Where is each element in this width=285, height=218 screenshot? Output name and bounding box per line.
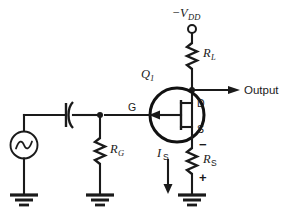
gate-resistor-label-subscript: G bbox=[118, 148, 124, 158]
ground-source-resistor bbox=[178, 195, 206, 205]
ac-source-symbol bbox=[11, 115, 38, 194]
supply-label-subscript: DD bbox=[187, 12, 201, 22]
output-label: Output bbox=[244, 84, 279, 96]
gate-resistor-label-symbol: R bbox=[109, 142, 118, 156]
jfet-transistor-symbol bbox=[105, 88, 204, 142]
gate-resistor-symbol bbox=[95, 138, 105, 164]
source-current-label-subscript: S bbox=[163, 152, 169, 162]
load-resistor-symbol bbox=[187, 43, 197, 69]
circuit-schematic: − V DD R L Q 1 Output G D S R G R S bbox=[0, 0, 285, 218]
source-current-label-symbol: I bbox=[156, 146, 162, 160]
load-resistor-label-subscript: L bbox=[210, 52, 216, 62]
source-current-arrow bbox=[164, 160, 173, 194]
source-resistor-branch bbox=[187, 148, 197, 194]
supply-label: − V DD bbox=[172, 6, 201, 22]
source-resistor-symbol bbox=[187, 148, 197, 174]
transistor-label-symbol: Q bbox=[141, 67, 150, 81]
source-resistor-label-subscript: S bbox=[211, 158, 217, 168]
gate-terminal-label: G bbox=[128, 101, 136, 113]
polarity-plus-label: + bbox=[199, 170, 207, 185]
transistor-label-subscript: 1 bbox=[150, 73, 154, 83]
ground-source bbox=[10, 195, 38, 205]
supply-terminal-circle bbox=[188, 25, 196, 33]
jfet-amplifier-figure: − V DD R L Q 1 Output G D S R G R S bbox=[0, 0, 285, 218]
transistor-label: Q 1 bbox=[141, 67, 154, 83]
source-resistor-label-symbol: R bbox=[202, 152, 211, 166]
load-resistor-label-symbol: R bbox=[202, 46, 211, 60]
gate-resistor-label: R G bbox=[109, 142, 124, 158]
source-terminal-label: S bbox=[197, 123, 204, 135]
output-branch bbox=[189, 86, 240, 94]
gate-resistor-branch bbox=[95, 112, 105, 194]
drain-terminal-label: D bbox=[197, 97, 205, 109]
load-resistor-label: R L bbox=[202, 46, 216, 62]
output-arrowhead bbox=[228, 86, 240, 94]
current-arrowhead bbox=[164, 184, 173, 194]
ground-gate bbox=[86, 195, 114, 205]
source-resistor-label: R S bbox=[202, 152, 217, 168]
coupling-capacitor-symbol bbox=[24, 102, 100, 128]
source-current-label: I S bbox=[156, 146, 169, 162]
polarity-minus-label: − bbox=[199, 137, 207, 152]
